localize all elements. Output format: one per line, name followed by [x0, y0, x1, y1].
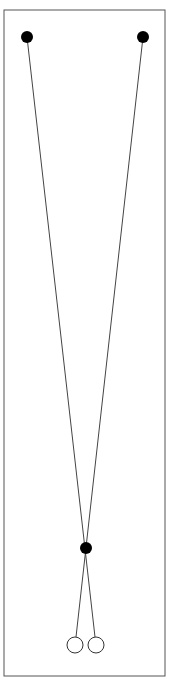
left-bob — [67, 637, 83, 653]
crossing-node — [80, 542, 92, 554]
right-pivot-node — [137, 31, 149, 43]
right-bob — [88, 637, 104, 653]
diagram-frame — [4, 10, 165, 676]
left-pivot-node — [21, 31, 33, 43]
pendulum-diagram — [0, 0, 187, 690]
